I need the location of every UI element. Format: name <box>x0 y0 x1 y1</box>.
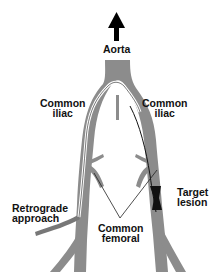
label-common-iliac-left: Common iliac <box>40 98 86 118</box>
left-internal-iliac <box>116 95 119 120</box>
label-target-lesion: Target lesion <box>177 187 208 207</box>
common-iliac-right-line2: iliac <box>142 108 188 118</box>
label-aorta: Aorta <box>103 44 130 54</box>
label-retrograde-approach: Retrograde approach <box>12 203 68 223</box>
label-common-iliac-right: Common iliac <box>142 98 188 118</box>
target-line2: lesion <box>177 197 208 207</box>
common-femoral-line2: femoral <box>98 233 144 243</box>
common-iliac-left-line2: iliac <box>40 108 86 118</box>
aorta-label-text: Aorta <box>103 43 130 55</box>
retrograde-line2: approach <box>12 213 68 223</box>
common-femoral-leaders <box>94 170 157 218</box>
label-common-femoral: Common femoral <box>98 223 144 243</box>
arrow-up-icon <box>108 12 125 41</box>
